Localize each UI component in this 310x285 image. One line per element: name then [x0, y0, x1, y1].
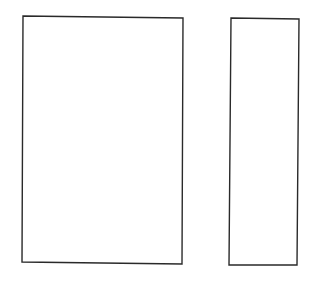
left-panel-rectangle — [22, 16, 183, 264]
right-panel-rectangle — [229, 18, 299, 265]
diagram-canvas — [0, 0, 310, 285]
